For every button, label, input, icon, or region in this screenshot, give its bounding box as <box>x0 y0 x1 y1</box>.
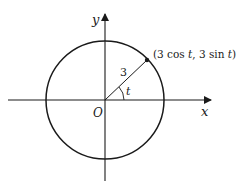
radius-label: 3 <box>120 66 127 79</box>
x-axis-label: x <box>201 104 209 119</box>
origin-label: O <box>93 106 103 120</box>
point-label-open: (3 cos <box>153 48 188 60</box>
point-on-circle <box>145 58 149 62</box>
circle-diagram: y x O 3 t (3 cos t, 3 sin t) <box>0 0 249 190</box>
point-label-mid: , 3 sin <box>192 48 228 60</box>
y-axis-label: y <box>91 12 100 27</box>
angle-arc <box>119 87 124 100</box>
angle-label: t <box>126 85 131 98</box>
point-label: (3 cos t, 3 sin t) <box>153 48 236 60</box>
point-label-close: ) <box>232 48 236 60</box>
